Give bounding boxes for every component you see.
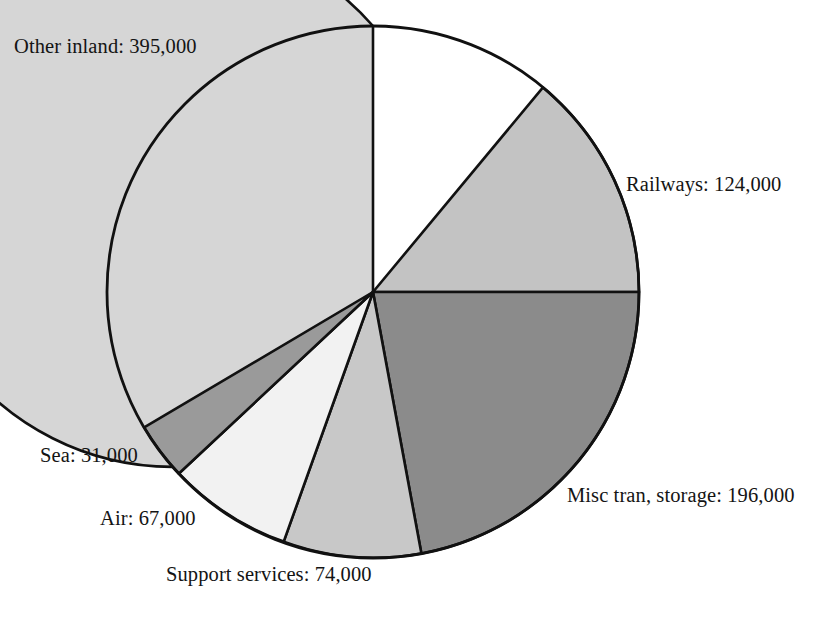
pie-label-sea: Sea: 31,000 (40, 444, 138, 467)
pie-chart: Other inland: 395,000 Railways: 124,000 … (0, 0, 839, 627)
pie-slice-railways[interactable] (373, 87, 639, 292)
pie-label-air: Air: 67,000 (100, 507, 196, 530)
pie-label-other-inland: Other inland: 395,000 (14, 35, 197, 58)
pie-chart-canvas (0, 0, 839, 627)
pie-slices (0, 0, 639, 558)
pie-label-support-services: Support services: 74,000 (166, 563, 372, 586)
pie-label-misc-tran-storage: Misc tran, storage: 196,000 (567, 484, 795, 507)
pie-label-railways: Railways: 124,000 (626, 173, 781, 196)
